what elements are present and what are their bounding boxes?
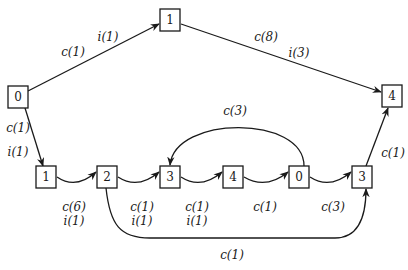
label-i3: i(3) [289, 46, 310, 60]
label-i1: i(1) [98, 30, 119, 44]
svg-text:4: 4 [388, 89, 396, 103]
node-right-4: 4 [382, 85, 402, 107]
label-c1: c(1) [185, 200, 209, 214]
edge-left0-top1 [28, 24, 159, 91]
label-i1: i(1) [64, 214, 85, 228]
node-bottom-1: 1 [36, 166, 56, 188]
label-i1: i(1) [187, 214, 208, 228]
label-c3: c(3) [321, 200, 345, 214]
svg-text:4: 4 [229, 170, 237, 184]
node-left-0: 0 [8, 86, 28, 108]
edge-b0-b3-back [170, 128, 304, 166]
svg-text:0: 0 [295, 170, 303, 184]
node-bottom-4: 4 [223, 166, 243, 188]
node-bottom-2: 2 [97, 166, 117, 188]
svg-text:2: 2 [103, 170, 111, 184]
node-bottom-3b: 3 [352, 166, 372, 188]
node-bottom-0: 0 [289, 166, 309, 188]
label-i1: i(1) [8, 145, 29, 159]
label-c8: c(8) [254, 30, 278, 44]
edge-b4-b0 [244, 172, 288, 182]
svg-text:1: 1 [42, 170, 50, 184]
svg-text:1: 1 [166, 13, 174, 27]
node-bottom-3: 3 [160, 166, 180, 188]
svg-text:3: 3 [358, 170, 366, 184]
label-c1: c(1) [61, 45, 85, 59]
edge-top1-right4 [181, 24, 381, 92]
label-c1: c(1) [253, 200, 277, 214]
label-c1: c(1) [6, 121, 30, 135]
svg-text:3: 3 [166, 170, 174, 184]
graph-diagram: c(1) i(1) c(8) i(3) c(1) i(1) c(6) i(1) … [0, 0, 408, 270]
svg-text:0: 0 [14, 90, 22, 104]
edge-b1-b2 [57, 172, 96, 182]
node-top-1: 1 [160, 9, 180, 31]
label-c3: c(3) [223, 104, 247, 118]
edge-b2-b3 [118, 172, 159, 182]
edge-b3-b4 [181, 172, 222, 182]
label-c1: c(1) [220, 248, 244, 262]
label-i1: i(1) [132, 214, 153, 228]
label-c6: c(6) [62, 200, 86, 214]
edge-b0-b3b [310, 172, 351, 182]
label-c1: c(1) [381, 146, 405, 160]
label-c1: c(1) [130, 200, 154, 214]
